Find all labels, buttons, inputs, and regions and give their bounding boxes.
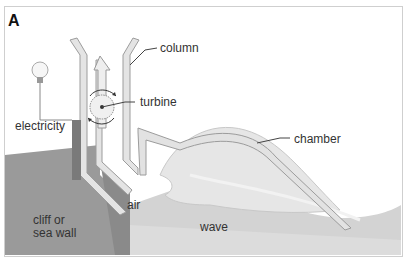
generator-block xyxy=(72,120,81,180)
label-electricity: electricity xyxy=(15,120,65,133)
label-chamber: chamber xyxy=(294,133,341,146)
column-leader xyxy=(130,48,157,65)
light-bulb-icon xyxy=(32,62,48,78)
label-cliff-line2: sea wall xyxy=(33,227,76,240)
panel-letter: A xyxy=(8,12,20,30)
label-turbine: turbine xyxy=(140,96,177,109)
label-column: column xyxy=(160,42,199,55)
electricity-wire xyxy=(40,83,72,120)
label-wave: wave xyxy=(200,221,228,234)
label-air: air xyxy=(127,199,140,212)
